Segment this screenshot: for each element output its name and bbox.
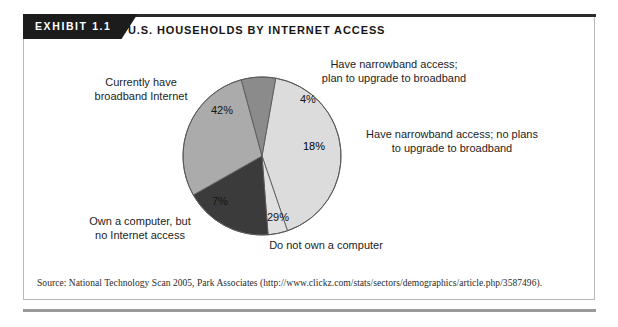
slice-percent-no-computer: 29% [267, 211, 289, 223]
slice-percent-narrowband-plan: 4% [300, 93, 316, 105]
slice-label-narrowband-plan-line2: plan to upgrade to broadband [288, 72, 500, 86]
slice-label-broadband-line1: Currently have [66, 76, 216, 90]
exhibit-number-tab: EXHIBIT 1.1 [23, 14, 138, 39]
slice-label-narrowband-plan-line1: Have narrowband access; [288, 58, 500, 72]
slice-label-broadband: Currently have broadband Internet [66, 76, 216, 103]
slice-label-no-computer: Do not own a computer [236, 239, 416, 253]
slice-label-own-computer-line2: no Internet access [60, 229, 220, 243]
exhibit-number-label: EXHIBIT 1.1 [35, 21, 112, 32]
slice-percent-own-computer: 7% [212, 195, 228, 207]
source-note: Source: National Technology Scan 2005, P… [37, 278, 542, 288]
slice-label-narrowband-noplan-line1: Have narrowband access; no plans [340, 128, 564, 142]
slice-label-own-computer: Own a computer, but no Internet access [60, 215, 220, 242]
slice-label-narrowband-plan: Have narrowband access; plan to upgrade … [288, 58, 500, 85]
exhibit-frame [23, 14, 595, 300]
slice-percent-broadband: 42% [211, 104, 233, 116]
exhibit-page: EXHIBIT 1.1 U.S. HOUSEHOLDS BY INTERNET … [0, 0, 618, 327]
slice-label-narrowband-noplan-line2: to upgrade to broadband [340, 142, 564, 156]
slice-label-no-computer-line1: Do not own a computer [236, 239, 416, 253]
slice-label-narrowband-noplan: Have narrowband access; no plans to upgr… [340, 128, 564, 155]
slice-percent-narrowband-noplan: 18% [303, 140, 325, 152]
frame-bottom-rule [23, 309, 596, 312]
chart-title: U.S. HOUSEHOLDS BY INTERNET ACCESS [128, 24, 385, 36]
slice-label-broadband-line2: broadband Internet [66, 90, 216, 104]
slice-label-own-computer-line1: Own a computer, but [60, 215, 220, 229]
